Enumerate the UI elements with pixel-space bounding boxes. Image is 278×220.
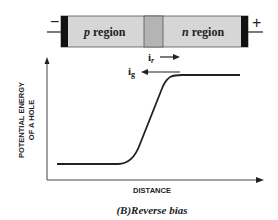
figure-caption: (B)Reverse bias (116, 204, 187, 217)
left-contact (61, 16, 68, 47)
x-axis-arrow-icon (256, 177, 264, 183)
y-axis-arrow-icon (45, 57, 50, 64)
right-contact (241, 16, 248, 47)
x-axis-label: DISTANCE (133, 186, 171, 195)
n-region-label: n region (182, 25, 224, 39)
potential-energy-curve (57, 75, 240, 164)
pn-junction-diagram: − + p region n region ir ig POTENTIAL EN… (0, 0, 278, 220)
ig-label: ig (128, 65, 135, 79)
ig-arrow-icon (141, 69, 148, 75)
svg-text:OF A HOLE: OF A HOLE (27, 100, 36, 140)
ir-arrow-icon (173, 54, 180, 60)
depletion-region (144, 16, 163, 47)
positive-sign: + (252, 14, 261, 31)
svg-text:POTENTIAL ENERGY: POTENTIAL ENERGY (17, 82, 26, 158)
p-region-label: p region (83, 25, 126, 39)
ir-label: ir (148, 51, 155, 65)
negative-sign: − (50, 13, 59, 30)
y-axis-label: POTENTIAL ENERGY OF A HOLE (17, 82, 36, 158)
